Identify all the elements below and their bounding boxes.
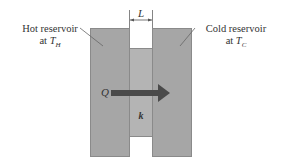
cold-reservoir-label-line1: Cold reservoir bbox=[196, 23, 276, 35]
heat-flow-label: Q bbox=[99, 86, 111, 98]
dimension-arrowhead-left-icon bbox=[130, 19, 134, 22]
hot-reservoir-label-line2: at TH bbox=[12, 35, 88, 51]
heat-flow-arrowhead-icon bbox=[158, 84, 170, 102]
conductivity-label: k bbox=[135, 110, 147, 122]
cold-reservoir-label-line2: at TC bbox=[196, 35, 276, 51]
hot-reservoir-label-line1: Hot reservoir bbox=[12, 23, 88, 35]
cold-reservoir-label: Cold reservoir at TC bbox=[196, 23, 276, 51]
cold-reservoir-leader-line bbox=[180, 28, 195, 46]
hot-reservoir-label: Hot reservoir at TH bbox=[12, 23, 88, 51]
slab-thickness-label: L bbox=[135, 7, 147, 19]
heat-flow-arrow-shaft bbox=[111, 90, 159, 96]
dimension-arrowhead-right-icon bbox=[148, 19, 152, 22]
